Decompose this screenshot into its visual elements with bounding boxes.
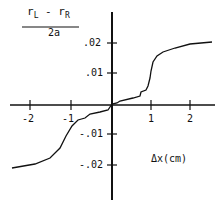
y-tick-label-neg0.02: -.02 — [79, 159, 103, 170]
y-tick-label-0.01: .01 — [85, 67, 103, 78]
x-tick-label-neg1: -1 — [62, 113, 74, 124]
y-tick-label-0.02: .02 — [83, 37, 101, 48]
x-tick-label-2: 2 — [187, 113, 193, 124]
y-tick-label-neg0.01: -.01 — [79, 128, 103, 139]
x-tick-label-1: 1 — [148, 113, 154, 124]
x-tick-label-neg2: -2 — [22, 113, 34, 124]
chart-plot — [0, 0, 223, 212]
x-axis-label: Δx(cm) — [151, 153, 187, 164]
